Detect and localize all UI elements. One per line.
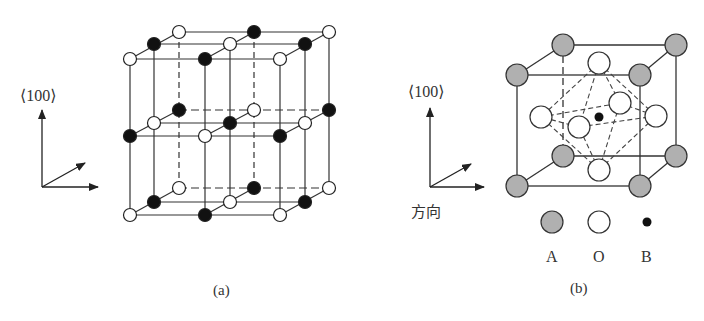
atom-a [665,145,687,167]
atom-o [645,105,667,127]
legend-b-symbol [643,218,652,227]
legend-a-symbol [541,211,563,233]
atom-black [173,104,186,117]
atom-white [248,104,261,117]
panel-a-caption: (a) [213,282,230,299]
atom-white [224,196,237,209]
atom-a [629,175,651,197]
atom-white [124,209,137,222]
atom-black [148,38,161,51]
atom-white [274,209,287,222]
atom-black [299,38,312,51]
atom-white [148,117,161,130]
atom-a [665,34,687,56]
atom-o [588,52,610,74]
legend-b-label: B [641,248,652,266]
atom-white [173,26,186,39]
atom-white [299,117,312,130]
atom-white [173,182,186,195]
atom-white [124,53,137,66]
panel-b-caption: (b) [570,280,588,297]
atom-o [530,106,552,128]
panel-b-legend-symbols [541,211,652,233]
atom-o [568,116,590,138]
atom-black [224,117,237,130]
atom-white [323,182,336,195]
legend-a-label: A [546,248,558,266]
atom-white [199,130,212,143]
atom-black [199,53,212,66]
panel-b-axes [430,108,484,187]
atom-black [248,182,261,195]
atom-a [552,145,574,167]
atom-black [248,26,261,39]
atom-b [595,113,604,122]
panel-b-axis-label: ⟨100⟩ [408,82,444,101]
atom-black [274,130,287,143]
atom-o [588,159,610,181]
atom-a [629,64,651,86]
atom-white [274,53,287,66]
atom-a [506,175,528,197]
atom-black [299,196,312,209]
atom-black [323,104,336,117]
atom-black [199,209,212,222]
legend-o-label: O [593,248,605,266]
atom-black [124,130,137,143]
panel-a-axis-label: ⟨100⟩ [20,86,56,105]
atom-black [148,196,161,209]
panel-b-direction-label: 方向 [411,200,441,221]
atom-a [552,34,574,56]
legend-o-symbol [588,211,610,233]
atom-white [224,38,237,51]
atom-a [506,64,528,86]
atom-white [323,26,336,39]
atom-o [609,92,631,114]
figure-canvas [0,0,704,321]
panel-a-axes [42,110,98,187]
